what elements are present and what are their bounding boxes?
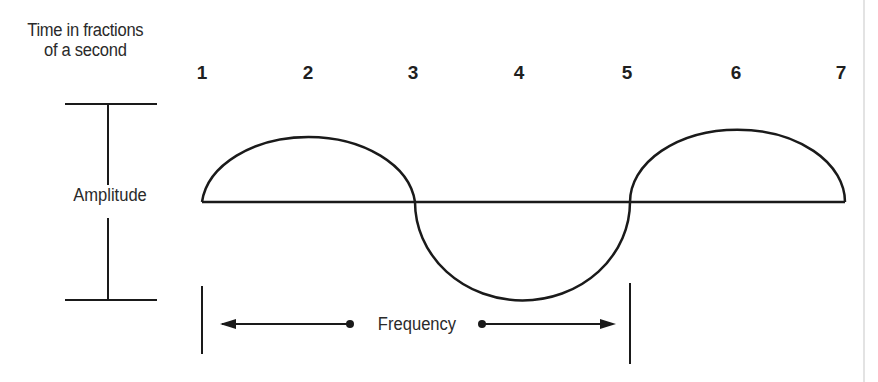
tick-label-6: 6	[724, 62, 748, 84]
page-edge-divider	[863, 0, 865, 382]
tick-label-1: 1	[190, 62, 214, 84]
tick-label-7: 7	[829, 62, 853, 84]
tick-label-4: 4	[507, 62, 531, 84]
time-axis-title: Time in fractions of a second	[8, 20, 163, 60]
tick-label-5: 5	[615, 62, 639, 84]
amplitude-label: Amplitude	[64, 185, 156, 206]
title-line-2: of a second	[8, 40, 163, 60]
tick-label-3: 3	[401, 62, 425, 84]
tick-label-2: 2	[296, 62, 320, 84]
sine-wave	[202, 130, 845, 301]
frequency-label: Frequency	[366, 314, 467, 335]
title-line-1: Time in fractions	[8, 20, 163, 40]
